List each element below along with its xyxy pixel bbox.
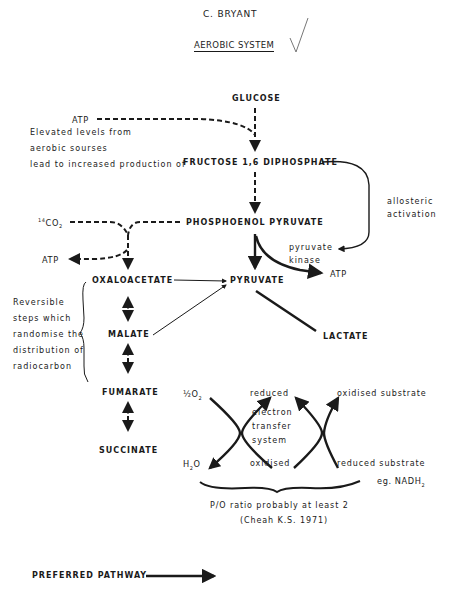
node-atp-left: ATP	[42, 256, 59, 264]
h2o-label: H2O	[183, 460, 201, 471]
oxidised-substrate-label: oxidised substrate	[337, 390, 427, 398]
node-pyruvate: PYRUVATE	[230, 277, 284, 285]
elevated-levels-note: Elevated levels from aerobic sourses lea…	[30, 125, 186, 173]
half-o2-label: ½O2	[183, 390, 202, 401]
node-co2: 14CO2	[38, 218, 63, 229]
reduced-substrate-label: reduced substrate	[337, 460, 425, 468]
citation: (Cheah K.S. 1971)	[240, 517, 328, 525]
author-name: C. BRYANT	[203, 10, 257, 19]
node-atp-right: ATP	[330, 270, 347, 278]
reduced-carrier-label: reduced	[250, 390, 289, 398]
node-succinate: SUCCINATE	[99, 447, 158, 455]
oxidised-carrier-label: oxidised	[250, 460, 290, 468]
nadh-example-label: eg. NADH2	[377, 477, 425, 488]
node-oxaloacetate: OXALOACETATE	[92, 277, 173, 285]
node-malate: MALATE	[108, 331, 150, 339]
node-atp-top: ATP	[72, 116, 89, 124]
page-title: AEROBIC SYSTEM	[194, 41, 274, 50]
reversible-steps-note: Reversible steps which randomise the dis…	[13, 295, 84, 375]
node-phosphoenol-pyruvate: PHOSPHOENOL PYRUVATE	[186, 219, 324, 227]
title-text: AEROBIC SYSTEM	[194, 40, 274, 52]
node-lactate: LACTATE	[323, 333, 369, 341]
legend-preferred-pathway: PREFERRED PATHWAY	[32, 572, 147, 580]
allosteric-activation-note: allosteric activation	[387, 195, 437, 221]
check-mark-icon	[290, 18, 308, 52]
electron-transfer-system-label: electron transfer system	[252, 406, 293, 448]
pyruvate-kinase-label: pyruvate kinase	[289, 241, 333, 267]
po-ratio-note: P/O ratio probably at least 2	[210, 502, 349, 510]
node-fructose-diphosphate: FRUCTOSE 1,6 DIPHOSPHATE	[183, 159, 338, 167]
node-glucose: GLUCOSE	[232, 95, 281, 103]
node-fumarate: FUMARATE	[102, 389, 159, 397]
